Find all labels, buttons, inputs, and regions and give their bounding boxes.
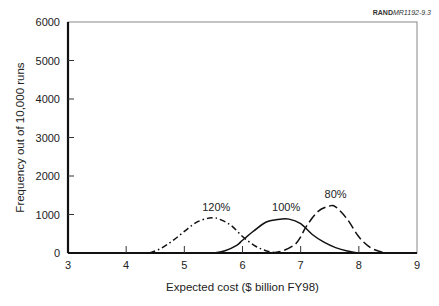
- annotation-label: 100%: [272, 201, 300, 213]
- annotation-label: 80%: [325, 188, 347, 200]
- y-tick-label: 4000: [36, 93, 60, 105]
- axis-ticks: 34567890100020003000400050006000: [36, 16, 421, 271]
- y-tick-label: 0: [54, 247, 60, 259]
- x-tick-label: 7: [298, 259, 304, 271]
- y-tick-label: 2000: [36, 170, 60, 182]
- x-tick-label: 9: [414, 259, 420, 271]
- x-axis-title: Expected cost ($ billion FY98): [166, 281, 319, 293]
- x-tick-label: 3: [65, 259, 71, 271]
- x-tick-label: 4: [123, 259, 129, 271]
- annotation-label: 120%: [202, 201, 230, 213]
- y-tick-label: 5000: [36, 55, 60, 67]
- x-tick-label: 8: [356, 259, 362, 271]
- curve-annotations: 120%100%80%: [202, 188, 347, 212]
- curves: [149, 205, 387, 253]
- x-tick-label: 5: [181, 259, 187, 271]
- curve-120pct: [149, 218, 277, 253]
- y-tick-label: 1000: [36, 209, 60, 221]
- x-tick-label: 6: [239, 259, 245, 271]
- plot-frame: [68, 22, 417, 253]
- curve-100pct: [213, 219, 358, 253]
- y-tick-label: 3000: [36, 132, 60, 144]
- chart: 34567890100020003000400050006000 120%100…: [0, 0, 439, 306]
- y-axis-title: Frequency out of 10,000 runs: [14, 62, 26, 212]
- y-tick-label: 6000: [36, 16, 60, 28]
